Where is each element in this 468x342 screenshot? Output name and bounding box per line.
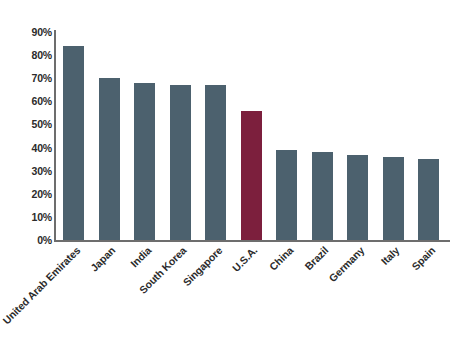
y-axis-tick-label: 90%: [0, 26, 52, 38]
y-axis-tick-label: 40%: [0, 142, 52, 154]
bar[interactable]: [205, 85, 226, 240]
bar[interactable]: [383, 157, 404, 240]
bar-slot: [312, 32, 333, 240]
y-axis-tick-label: 60%: [0, 95, 52, 107]
bar-slot: [418, 32, 439, 240]
bar[interactable]: [170, 85, 191, 240]
bar-slot: [99, 32, 120, 240]
bar[interactable]: [276, 150, 297, 240]
bar-slot: [347, 32, 368, 240]
bar-slot: [276, 32, 297, 240]
bar[interactable]: [241, 111, 262, 240]
bar-slot: [170, 32, 191, 240]
bar[interactable]: [312, 152, 333, 240]
bar-slot: [205, 32, 226, 240]
plot-area: [55, 32, 450, 240]
y-axis-tick-label: 20%: [0, 188, 52, 200]
y-axis-tick-label: 50%: [0, 118, 52, 130]
y-axis-tick-label: 10%: [0, 211, 52, 223]
bar-slot: [134, 32, 155, 240]
y-axis-tick-label: 30%: [0, 165, 52, 177]
bar-slot: [63, 32, 84, 240]
bar[interactable]: [347, 155, 368, 241]
bar-chart: 0%10%20%30%40%50%60%70%80%90% United Ara…: [0, 0, 468, 342]
y-axis-tick-label: 70%: [0, 72, 52, 84]
bar[interactable]: [63, 46, 84, 240]
x-axis-line: [54, 240, 450, 242]
bar[interactable]: [134, 83, 155, 240]
y-axis-tick-label: 0%: [0, 234, 52, 246]
bar[interactable]: [418, 159, 439, 240]
bar-slot: [383, 32, 404, 240]
x-axis-tick-labels: United Arab EmiratesJapanIndiaSouth Kore…: [55, 244, 455, 342]
bar-slot: [241, 32, 262, 240]
bar[interactable]: [99, 78, 120, 240]
y-axis-tick-label: 80%: [0, 49, 52, 61]
